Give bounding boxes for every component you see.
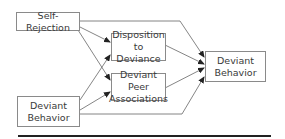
node-label-line2: to Deviance	[112, 41, 165, 65]
node-label: Self-Rejection	[17, 10, 79, 34]
node-label-line2: Associations	[109, 93, 168, 105]
node-label-line1: Disposition	[112, 29, 165, 41]
node-disposition-to-deviance: Disposition to Deviance	[111, 33, 166, 61]
node-label-line1: Deviant Peer	[112, 69, 165, 93]
node-deviant-behavior-outcome: Deviant Behavior	[205, 51, 266, 82]
node-label-line1: Deviant	[30, 100, 67, 112]
node-label-line1: Deviant	[217, 55, 254, 67]
node-deviant-peer-associations: Deviant Peer Associations	[111, 73, 166, 101]
node-self-rejection: Self-Rejection	[16, 12, 80, 31]
bottom-rule	[18, 135, 271, 137]
node-label-line2: Behavior	[214, 67, 256, 79]
node-deviant-behavior-input: Deviant Behavior	[17, 96, 80, 127]
edge-behavior-peer	[80, 92, 110, 110]
node-label-line2: Behavior	[27, 112, 69, 124]
edge-peer-behavior	[165, 68, 204, 88]
edge-self-rejection-peer	[78, 30, 110, 80]
edge-behavior-disposition	[80, 55, 110, 100]
